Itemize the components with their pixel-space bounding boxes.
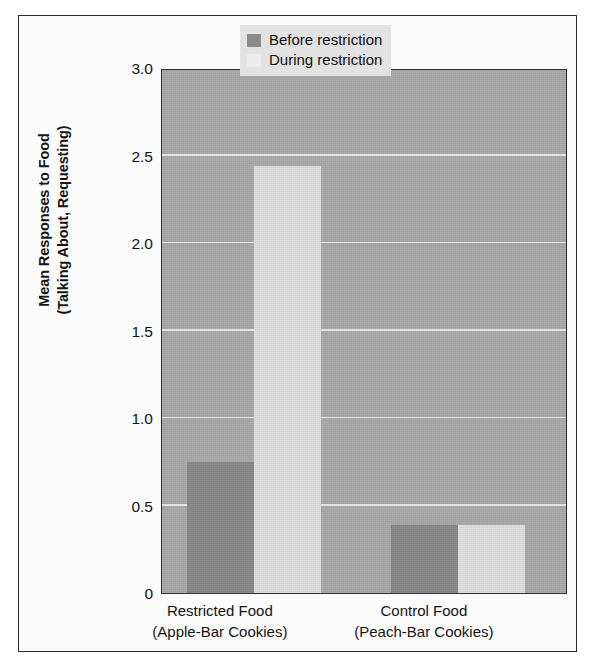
y-tick-label: 2.5 [115, 148, 153, 166]
gridline [162, 417, 566, 419]
plot-area [161, 69, 567, 594]
gridline [162, 242, 566, 244]
legend-label: During restriction [269, 51, 382, 69]
bar-during-1 [458, 525, 525, 593]
x-axis-category-labels: Restricted Food(Apple-Bar Cookies)Contro… [161, 600, 567, 648]
y-tick-label: 1.5 [115, 323, 153, 341]
y-tick-label: 2.0 [115, 235, 153, 253]
legend: Before restrictionDuring restriction [240, 25, 391, 76]
x-category-label-0: Restricted Food(Apple-Bar Cookies) [120, 600, 320, 642]
y-tick-label: 3.0 [115, 60, 153, 78]
y-axis-tick-labels: 00.51.01.52.02.53.0 [115, 16, 153, 651]
bar-before-1 [391, 525, 458, 593]
y-axis-title-line-2: (Talking About, Requesting) [55, 126, 71, 315]
x-category-label-line-2: (Peach-Bar Cookies) [324, 621, 524, 642]
x-category-label-1: Control Food(Peach-Bar Cookies) [324, 600, 524, 642]
gridline [162, 329, 566, 331]
bar-during-0 [254, 166, 321, 593]
legend-entry-0: Before restriction [247, 30, 382, 50]
y-tick-label: 0.5 [115, 498, 153, 516]
x-category-label-line-2: (Apple-Bar Cookies) [120, 621, 320, 642]
legend-swatch-during [247, 54, 261, 67]
y-axis-title: Mean Responses to Food (Talking About, R… [35, 20, 73, 420]
y-axis-title-line-1: Mean Responses to Food [36, 133, 52, 306]
x-category-label-line-1: Control Food [381, 602, 468, 619]
figure-frame: Mean Responses to Food (Talking About, R… [18, 15, 577, 652]
chart-figure: Mean Responses to Food (Talking About, R… [0, 0, 595, 667]
y-tick-label: 1.0 [115, 410, 153, 428]
gridline [162, 154, 566, 156]
bar-before-0 [187, 462, 254, 593]
legend-swatch-before [247, 34, 261, 47]
legend-label: Before restriction [269, 31, 382, 49]
legend-entry-1: During restriction [247, 50, 382, 70]
x-category-label-line-1: Restricted Food [167, 602, 273, 619]
